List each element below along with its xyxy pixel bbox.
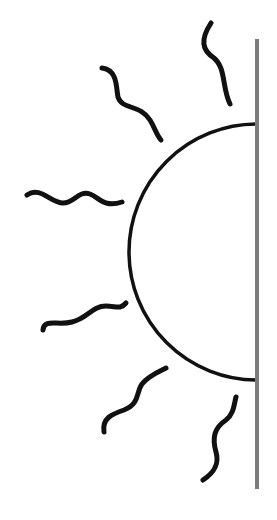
sun-half-circle-icon xyxy=(129,124,257,380)
ray-left-lower-icon xyxy=(43,303,126,330)
ray-left-upper-icon xyxy=(27,192,122,204)
sun-rays-group xyxy=(27,23,236,480)
ray-upper-left-icon xyxy=(102,68,161,140)
drawing-canvas xyxy=(0,0,277,520)
sun-wall-drawing: Line drawing of a half sun rising from b… xyxy=(0,0,277,520)
ray-lower-left-icon xyxy=(104,368,166,432)
ray-bottom-right-icon xyxy=(203,397,236,480)
ray-top-right-icon xyxy=(204,23,230,104)
